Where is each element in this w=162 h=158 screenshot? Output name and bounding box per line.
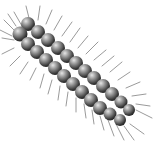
caterpillar-illustration <box>0 0 162 158</box>
body-segments <box>13 17 136 126</box>
image-canvas: Grayscale illustration of a bristly cate… <box>0 0 162 158</box>
